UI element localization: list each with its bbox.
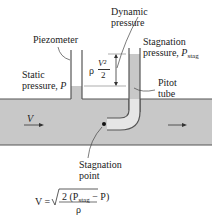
stagnation-point-label-2: point — [79, 170, 100, 181]
static-pressure-label-2: pressure, P — [22, 80, 66, 91]
dynamic-pressure-label-2: pressure — [111, 17, 144, 28]
dynamic-expr-num: V² — [98, 58, 106, 69]
dynamic-expr-den: 2 — [101, 70, 106, 81]
pitot-tube-label-2: tube — [158, 88, 175, 99]
pitot-tube-label-1: Pitot — [158, 77, 177, 88]
formula-numerator: 2 (Pstag − P) — [62, 191, 109, 206]
formula-lhs: V = — [35, 196, 50, 207]
stagnation-point-label-1: Stagnation — [79, 159, 122, 170]
stagnation-point-dot — [102, 122, 106, 126]
piezometer-fluid — [71, 86, 82, 100]
pitot-fluid — [129, 54, 140, 100]
dynamic-expr-rho: ρ — [89, 65, 94, 76]
velocity-label: V — [27, 113, 33, 124]
formula-denominator: ρ — [76, 204, 81, 215]
dynamic-pressure-label-1: Dynamic — [111, 6, 148, 17]
static-pressure-label-1: Static — [22, 69, 45, 80]
stagnation-pressure-label-1: Stagnation — [143, 36, 186, 47]
pitot-static-diagram — [0, 0, 212, 221]
piezometer-label: Piezometer — [33, 34, 78, 45]
stagnation-pressure-label-2: pressure, Pstag — [143, 47, 199, 62]
